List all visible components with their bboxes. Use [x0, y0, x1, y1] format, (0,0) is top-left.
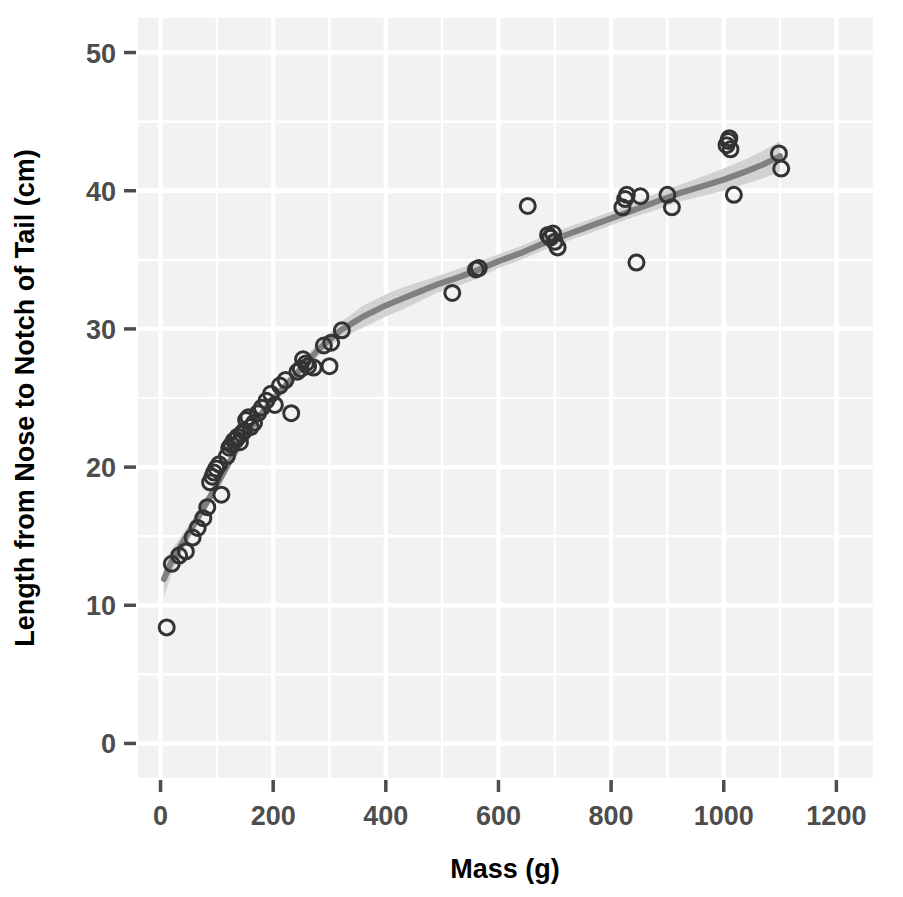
y-tick-label: 20: [86, 453, 116, 483]
x-tick-label: 1000: [694, 801, 754, 831]
x-tick-label: 400: [363, 801, 408, 831]
x-tick-label: 600: [476, 801, 521, 831]
y-tick-label: 30: [86, 315, 116, 345]
y-tick-label: 10: [86, 591, 116, 621]
x-tick-label: 1200: [806, 801, 866, 831]
y-tick-label: 0: [101, 729, 116, 759]
x-tick-label: 200: [251, 801, 296, 831]
y-tick-label: 40: [86, 177, 116, 207]
y-tick-label: 50: [86, 39, 116, 69]
chart-page: 020040060080010001200 01020304050 Mass (…: [0, 0, 903, 897]
x-tick-label: 800: [589, 801, 634, 831]
x-tick-label: 0: [153, 801, 168, 831]
x-axis-title: Mass (g): [450, 854, 560, 884]
scatter-plot: 020040060080010001200 01020304050 Mass (…: [0, 0, 903, 897]
y-axis-title: Length from Nose to Notch of Tail (cm): [10, 149, 40, 646]
